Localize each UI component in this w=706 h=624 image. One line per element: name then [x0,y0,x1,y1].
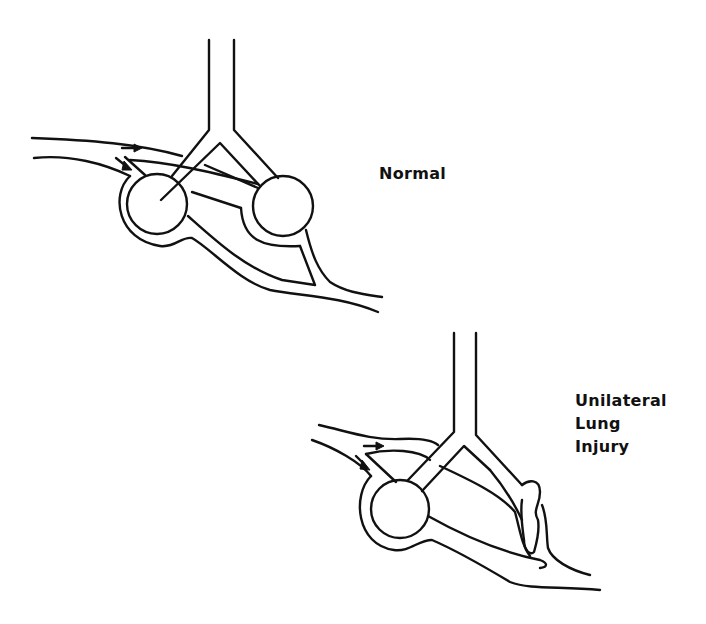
arrow-down-right-icon [360,460,370,470]
injury-edema-sac [521,481,540,553]
left-alveolus [127,174,187,234]
label-line-3: Injury [575,435,667,458]
injury-alveolus [371,480,429,538]
label-unilateral-lung-injury: Unilateral Lung Injury [575,389,667,458]
injury-inflow-bottom [312,440,371,476]
label-line-1: Unilateral [575,389,667,412]
right-alveolus-outer-wall [241,208,300,246]
airway-right-wall [234,40,278,178]
diagram-canvas: Normal Unilateral Lung Injury [0,0,706,624]
injury-inflow-mid [366,451,430,460]
injury-outflow-vessel [428,516,546,568]
arrow-right-icon [376,442,384,450]
capillary-band [192,192,241,208]
injury-airway-inner-branch [422,446,490,491]
airway-vessel-diagram [0,0,706,624]
injury-edema-outer [542,505,590,575]
label-line-2: Lung [575,412,667,435]
inflow-vessel-bottom [34,157,130,176]
injury-panel [312,333,600,590]
arrow-right-icon [134,144,142,152]
right-alveolus [253,176,313,236]
injury-alveolus-outer-wall [360,476,600,590]
left-alveolus-outer-wall [120,176,378,312]
left-outflow-vessel [188,216,315,285]
flow-arrows [116,144,142,170]
right-outflow-vessel [306,230,382,297]
label-normal: Normal [379,162,446,185]
injury-airway-left-wall [408,333,454,480]
injury-inflow-top [319,425,438,445]
normal-panel [32,40,382,312]
inflow-vessel-top [32,138,182,156]
